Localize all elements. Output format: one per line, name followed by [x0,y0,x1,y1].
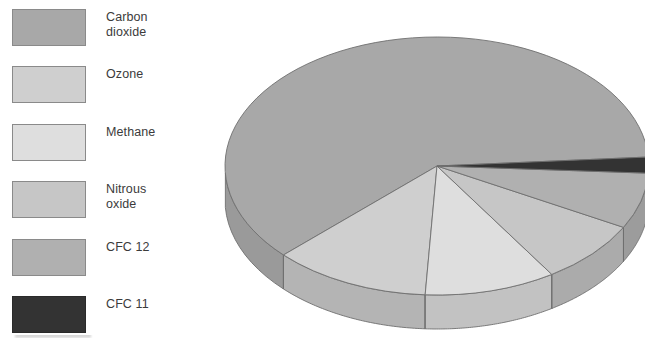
legend-swatch-carbon-dioxide [12,9,86,46]
chart-legend: Carbon dioxide Ozone Methane Nitrous oxi… [0,0,215,335]
legend-swatch-cfc-12 [12,239,86,276]
legend-label-ozone: Ozone [106,66,143,82]
legend-label-nitrous-oxide: Nitrous oxide [106,181,146,211]
legend-swatch-nitrous-oxide [12,181,86,218]
legend-swatch-ozone [12,66,86,103]
legend-swatch-wrap [12,66,90,107]
legend-swatch-wrap [12,296,90,337]
legend-swatch-cfc-11 [12,296,86,333]
legend-item-cfc-12[interactable]: CFC 12 [0,239,215,280]
legend-item-ozone[interactable]: Ozone [0,66,215,107]
legend-swatch-wrap [12,239,90,280]
legend-swatch-wrap [12,181,90,222]
legend-swatch-methane [12,124,86,161]
legend-item-nitrous-oxide[interactable]: Nitrous oxide [0,181,215,222]
legend-item-carbon-dioxide[interactable]: Carbon dioxide [0,9,215,50]
legend-label-carbon-dioxide: Carbon dioxide [106,9,148,39]
legend-swatch-wrap [12,124,90,165]
pie-svg [215,0,645,335]
legend-label-cfc-12: CFC 12 [106,239,150,255]
legend-label-methane: Methane [106,124,155,140]
pie-chart-graphic [215,0,645,335]
legend-item-cfc-11[interactable]: CFC 11 [0,296,215,337]
legend-swatch-wrap [12,9,90,50]
legend-item-methane[interactable]: Methane [0,124,215,165]
legend-label-cfc-11: CFC 11 [106,296,149,312]
